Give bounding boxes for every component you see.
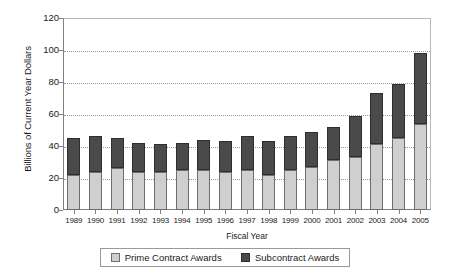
bar-stack[interactable] [89,18,102,210]
bar-segment-subcontract-awards[interactable] [241,136,254,170]
x-axis-tick-labels: 1989199019911992199319941995199619971998… [63,216,431,228]
bar-stack[interactable] [262,18,275,210]
x-axis-tick-mark [312,210,313,214]
y-axis-tick-mark [59,82,63,83]
bar-segment-subcontract-awards[interactable] [197,140,210,170]
bar-stack[interactable] [370,18,383,210]
bar-segment-prime-contract-awards[interactable] [414,124,427,210]
bar-stack[interactable] [111,18,124,210]
y-axis-tick-label: 20 [33,173,59,183]
bar-segment-subcontract-awards[interactable] [89,136,102,171]
x-axis-tick-marks [63,210,431,215]
x-axis-tick-mark [334,210,335,214]
bar-stack[interactable] [327,18,340,210]
bar-stack[interactable] [349,18,362,210]
bar-segment-prime-contract-awards[interactable] [305,167,318,210]
bar-stack[interactable] [132,18,145,210]
x-axis-tick-mark [139,210,140,214]
bar-segment-subcontract-awards[interactable] [111,138,124,168]
legend-swatch-icon [241,253,250,262]
y-axis-tick-mark [59,50,63,51]
bar-segment-prime-contract-awards[interactable] [262,175,275,210]
bar-stack[interactable] [154,18,167,210]
y-axis-tick-label: 80 [33,77,59,87]
bar-stack[interactable] [414,18,427,210]
x-axis-tick-mark [377,210,378,214]
bar-segment-prime-contract-awards[interactable] [132,172,145,210]
bar-segment-subcontract-awards[interactable] [176,143,189,170]
bar-segment-subcontract-awards[interactable] [262,141,275,175]
x-axis-tick-mark [117,210,118,214]
x-axis-tick-mark [247,210,248,214]
x-axis-tick-mark [95,210,96,214]
y-axis-tick-label: 40 [33,141,59,151]
x-axis-tick-mark [290,210,291,214]
bar-segment-subcontract-awards[interactable] [414,53,427,123]
chart-legend: Prime Contract AwardsSubcontract Awards [100,248,350,267]
bar-stack[interactable] [284,18,297,210]
bar-stack[interactable] [219,18,232,210]
bar-segment-prime-contract-awards[interactable] [67,175,80,210]
bar-segment-prime-contract-awards[interactable] [154,172,167,210]
x-axis-title: Fiscal Year [63,231,431,241]
bar-segment-subcontract-awards[interactable] [392,84,405,138]
bar-segment-prime-contract-awards[interactable] [197,170,210,210]
x-axis-tick-mark [74,210,75,214]
x-axis-tick-mark [204,210,205,214]
y-axis-tick-label: 120 [33,13,59,23]
bar-stack[interactable] [305,18,318,210]
bar-segment-subcontract-awards[interactable] [349,116,362,158]
y-axis-tick-mark [59,146,63,147]
bar-segment-prime-contract-awards[interactable] [392,138,405,210]
bar-segment-subcontract-awards[interactable] [370,93,383,144]
x-axis-tick-mark [182,210,183,214]
y-axis-tick-mark [59,210,63,211]
bar-segment-prime-contract-awards[interactable] [284,170,297,210]
bar-stack[interactable] [392,18,405,210]
bar-stack[interactable] [241,18,254,210]
bar-segment-prime-contract-awards[interactable] [89,172,102,210]
y-axis-tick-mark [59,178,63,179]
y-axis-tick-label: 60 [33,109,59,119]
bar-segment-prime-contract-awards[interactable] [219,172,232,210]
stacked-bar-chart: Billions of Current Year Dollars 0204060… [0,0,452,278]
legend-entry[interactable]: Prime Contract Awards [111,252,222,263]
bar-segment-prime-contract-awards[interactable] [111,168,124,210]
bar-segment-prime-contract-awards[interactable] [327,160,340,210]
x-axis-tick-mark [355,210,356,214]
bar-stack[interactable] [197,18,210,210]
y-axis-tick-mark [59,18,63,19]
y-axis-tick-labels: 020406080100120 [30,18,59,210]
bar-series-container [63,18,431,210]
bar-segment-subcontract-awards[interactable] [154,144,167,171]
bar-segment-subcontract-awards[interactable] [305,132,318,167]
x-axis-tick-mark [160,210,161,214]
x-axis-tick-mark [420,210,421,214]
x-axis-tick-label: 2005 [405,216,435,226]
bar-stack[interactable] [67,18,80,210]
bar-stack[interactable] [176,18,189,210]
bar-segment-prime-contract-awards[interactable] [370,144,383,210]
y-axis-tick-label: 100 [33,45,59,55]
bar-segment-prime-contract-awards[interactable] [176,170,189,210]
legend-swatch-icon [111,253,120,262]
bar-segment-subcontract-awards[interactable] [132,143,145,172]
x-axis-tick-mark [269,210,270,214]
y-axis-tick-mark [59,114,63,115]
bar-segment-subcontract-awards[interactable] [327,127,340,161]
bar-segment-subcontract-awards[interactable] [67,138,80,175]
x-axis-tick-mark [225,210,226,214]
legend-label: Prime Contract Awards [125,252,222,263]
bar-segment-subcontract-awards[interactable] [219,141,232,171]
legend-label: Subcontract Awards [255,252,339,263]
legend-entry[interactable]: Subcontract Awards [241,252,339,263]
bar-segment-subcontract-awards[interactable] [284,136,297,170]
y-axis-tick-label: 0 [33,205,59,215]
x-axis-tick-mark [399,210,400,214]
bar-segment-prime-contract-awards[interactable] [241,170,254,210]
bar-segment-prime-contract-awards[interactable] [349,157,362,210]
